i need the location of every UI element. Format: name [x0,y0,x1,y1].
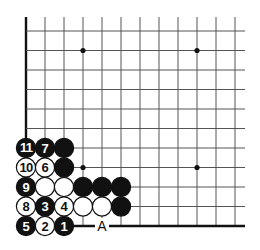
black-stone [111,197,130,216]
black-stone-icon [54,138,73,157]
white-stone [92,197,111,216]
black-stone: 1 [54,216,73,235]
white-stone: 6 [35,158,54,177]
black-stone [92,177,111,196]
white-stone [35,177,54,196]
board-marks: A [95,218,109,234]
white-stone-icon [54,177,73,196]
black-stone: 3 [35,197,54,216]
star-point-icon [80,165,85,170]
move-number-label: 5 [22,219,29,234]
move-number-label: 2 [41,219,48,234]
black-stone-icon [111,177,130,196]
star-point-icon [80,48,85,53]
white-stone: 8 [16,197,35,216]
white-stone-icon [92,197,111,216]
black-stone: 11 [16,138,35,157]
white-stone: 4 [54,197,73,216]
move-number-label: 3 [41,199,48,214]
black-stone [73,177,92,196]
white-stone [73,197,92,216]
move-number-label: 1 [60,219,67,234]
black-stone [111,177,130,196]
black-stone-icon [54,158,73,177]
move-number-label: 4 [60,199,68,214]
black-stone [54,158,73,177]
black-stone: 5 [16,216,35,235]
move-number-label: 9 [22,180,29,195]
go-board-diagram: A 1171069834521 [0,0,260,250]
black-stone: 9 [16,177,35,196]
white-stone [54,177,73,196]
star-point-icon [194,48,199,53]
move-number-label: 10 [20,160,33,175]
black-stone-icon [111,197,130,216]
black-stone-icon [92,177,111,196]
black-stone: 7 [35,138,54,157]
board-mark-label: A [97,218,107,234]
white-stone: 10 [16,158,35,177]
stones: 1171069834521 [16,138,130,235]
move-number-label: 8 [22,199,29,214]
white-stone: 2 [35,216,54,235]
white-stone-icon [73,197,92,216]
star-point-icon [194,165,199,170]
move-number-label: 11 [20,140,33,155]
move-number-label: 7 [41,141,48,156]
black-stone [54,138,73,157]
move-number-label: 6 [41,160,48,175]
white-stone-icon [35,177,54,196]
black-stone-icon [73,177,92,196]
